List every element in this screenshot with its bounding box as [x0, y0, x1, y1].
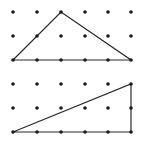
grid-dot	[129, 130, 133, 134]
grid-dot	[11, 10, 15, 14]
grid-dot	[35, 34, 39, 38]
grid-dot	[106, 10, 110, 14]
grid-dot	[129, 106, 133, 110]
grid-dot	[59, 82, 63, 86]
grid-dot	[11, 58, 15, 62]
grid-dot	[11, 34, 15, 38]
grid-dot	[35, 10, 39, 14]
grid-dot	[11, 82, 15, 86]
grid-dot	[83, 58, 87, 62]
grid-dot	[35, 58, 39, 62]
grid-dot	[59, 130, 63, 134]
grid-dot	[106, 58, 110, 62]
grid-dot	[59, 34, 63, 38]
grid-dot	[83, 10, 87, 14]
top-dot-grid-with-triangle	[11, 10, 133, 62]
geoboard-diagram	[0, 0, 142, 142]
grid-dot	[35, 106, 39, 110]
grid-dot	[129, 10, 133, 14]
grid-dot	[106, 106, 110, 110]
grid-dot	[11, 106, 15, 110]
grid-dot	[106, 34, 110, 38]
grid-dot	[106, 82, 110, 86]
grid-dot	[129, 34, 133, 38]
bottom-dot-grid-with-triangle	[11, 82, 133, 134]
grid-dot	[83, 34, 87, 38]
triangle-outline	[13, 84, 131, 132]
grid-dot	[83, 82, 87, 86]
triangle-outline	[13, 12, 131, 60]
grid-dot	[106, 130, 110, 134]
grid-dot	[83, 130, 87, 134]
grid-dot	[129, 58, 133, 62]
grid-dot	[35, 82, 39, 86]
grid-dot	[59, 106, 63, 110]
grid-dot	[59, 58, 63, 62]
grid-dot	[59, 10, 63, 14]
grid-dot	[129, 82, 133, 86]
dot-grid-figure	[0, 0, 142, 142]
grid-dot	[35, 130, 39, 134]
grid-dot	[11, 130, 15, 134]
grid-dot	[83, 106, 87, 110]
